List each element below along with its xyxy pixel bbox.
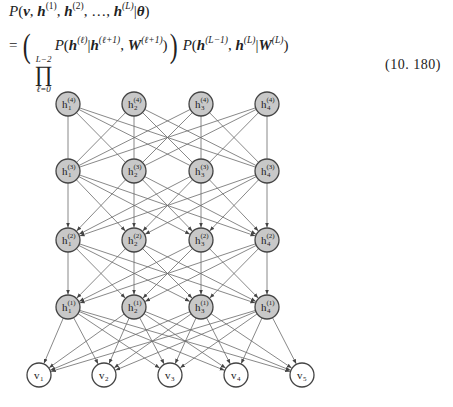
node-superscript: (1): [68, 299, 77, 307]
node-h4_3: h4(3): [255, 159, 279, 183]
node-superscript: (3): [201, 163, 210, 171]
node-superscript: (2): [68, 232, 77, 240]
node-v4: v4: [224, 363, 248, 387]
node-h1_1: h1(1): [56, 295, 80, 319]
node-subscript: 4: [237, 375, 241, 383]
node-subscript: 2: [134, 171, 138, 179]
node-v5: v5: [290, 363, 314, 387]
node-subscript: 3: [201, 171, 205, 179]
node-v2: v2: [92, 363, 116, 387]
node-subscript: 1: [68, 104, 72, 112]
edge-h4_1-v5: [272, 318, 296, 364]
node-superscript: (3): [134, 163, 143, 171]
node-h3_1: h3(1): [189, 295, 213, 319]
node-h3_2: h3(2): [189, 228, 213, 252]
node-superscript: (4): [267, 96, 276, 104]
node-v1: v1: [27, 363, 51, 387]
node-subscript: 4: [267, 104, 271, 112]
node-superscript: (4): [134, 96, 143, 104]
edge-h3_1-v1: [51, 312, 190, 371]
edge-h4_1-v4: [241, 318, 262, 364]
node-subscript: 3: [171, 375, 175, 383]
edge-h2_1-v4: [144, 314, 226, 368]
node-superscript: (2): [134, 232, 143, 240]
node-h3_4: h3(4): [189, 92, 213, 116]
node-superscript: (3): [267, 163, 276, 171]
node-subscript: 2: [134, 240, 138, 248]
node-subscript: 1: [68, 240, 72, 248]
node-h1_3: h1(3): [56, 159, 80, 183]
node-subscript: 1: [68, 171, 72, 179]
node-subscript: 3: [201, 104, 205, 112]
deep-belief-network-diagram: h1(4)h2(4)h3(4)h4(4)h1(3)h2(3)h3(3)h4(3)…: [0, 0, 453, 407]
node-subscript: 2: [134, 104, 138, 112]
node-h2_1: h2(1): [122, 295, 146, 319]
edge-h2_1-v1: [49, 314, 124, 368]
node-superscript: (4): [201, 96, 210, 104]
node-h1_2: h1(2): [56, 228, 80, 252]
node-subscript: 1: [40, 375, 44, 383]
node-subscript: 3: [201, 307, 205, 315]
edge-h4_1-v2: [116, 312, 256, 371]
node-h4_1: h4(1): [255, 295, 279, 319]
node-superscript: (1): [134, 299, 143, 307]
edge-h2_1-v5: [145, 312, 290, 371]
node-h2_4: h2(4): [122, 92, 146, 116]
node-h4_2: h4(2): [255, 228, 279, 252]
node-superscript: (2): [201, 232, 210, 240]
node-superscript: (2): [267, 232, 276, 240]
node-subscript: 4: [267, 171, 271, 179]
node-superscript: (3): [68, 163, 77, 171]
node-subscript: 4: [267, 240, 271, 248]
edge-h1_1-v1: [44, 318, 63, 363]
node-h1_4: h1(4): [56, 92, 80, 116]
node-h2_2: h2(2): [122, 228, 146, 252]
node-h4_4: h4(4): [255, 92, 279, 116]
node-superscript: (1): [201, 299, 210, 307]
node-subscript: 2: [134, 307, 138, 315]
node-subscript: 4: [267, 307, 271, 315]
node-subscript: 1: [68, 307, 72, 315]
node-subscript: 5: [303, 375, 307, 383]
node-subscript: 2: [105, 375, 109, 383]
node-superscript: (4): [68, 96, 77, 104]
edge-h4_1-v3: [180, 314, 257, 368]
node-superscript: (1): [267, 299, 276, 307]
node-v3: v3: [158, 363, 182, 387]
node-h2_3: h2(3): [122, 159, 146, 183]
node-subscript: 3: [201, 240, 205, 248]
node-h3_3: h3(3): [189, 159, 213, 183]
